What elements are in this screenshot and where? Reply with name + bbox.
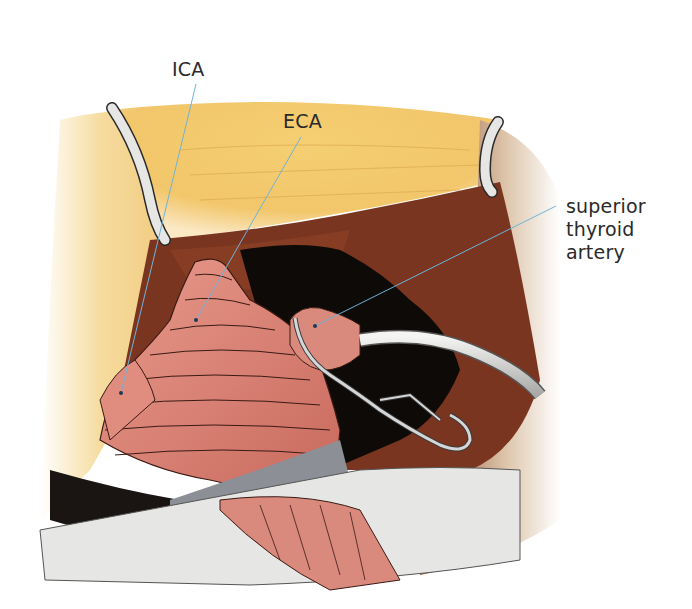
label-superior-thyroid-artery: superior thyroid artery [566,195,646,264]
carotid-exposure-illustration [0,0,692,609]
sta-marker-dot [313,324,317,328]
eca-marker-dot [194,318,198,322]
label-ica: ICA [172,58,204,81]
ica-marker-dot [119,391,123,395]
label-line-2: thyroid [566,218,646,241]
label-eca: ECA [283,110,322,133]
label-line-3: artery [566,241,646,264]
label-line-1: superior [566,195,646,218]
